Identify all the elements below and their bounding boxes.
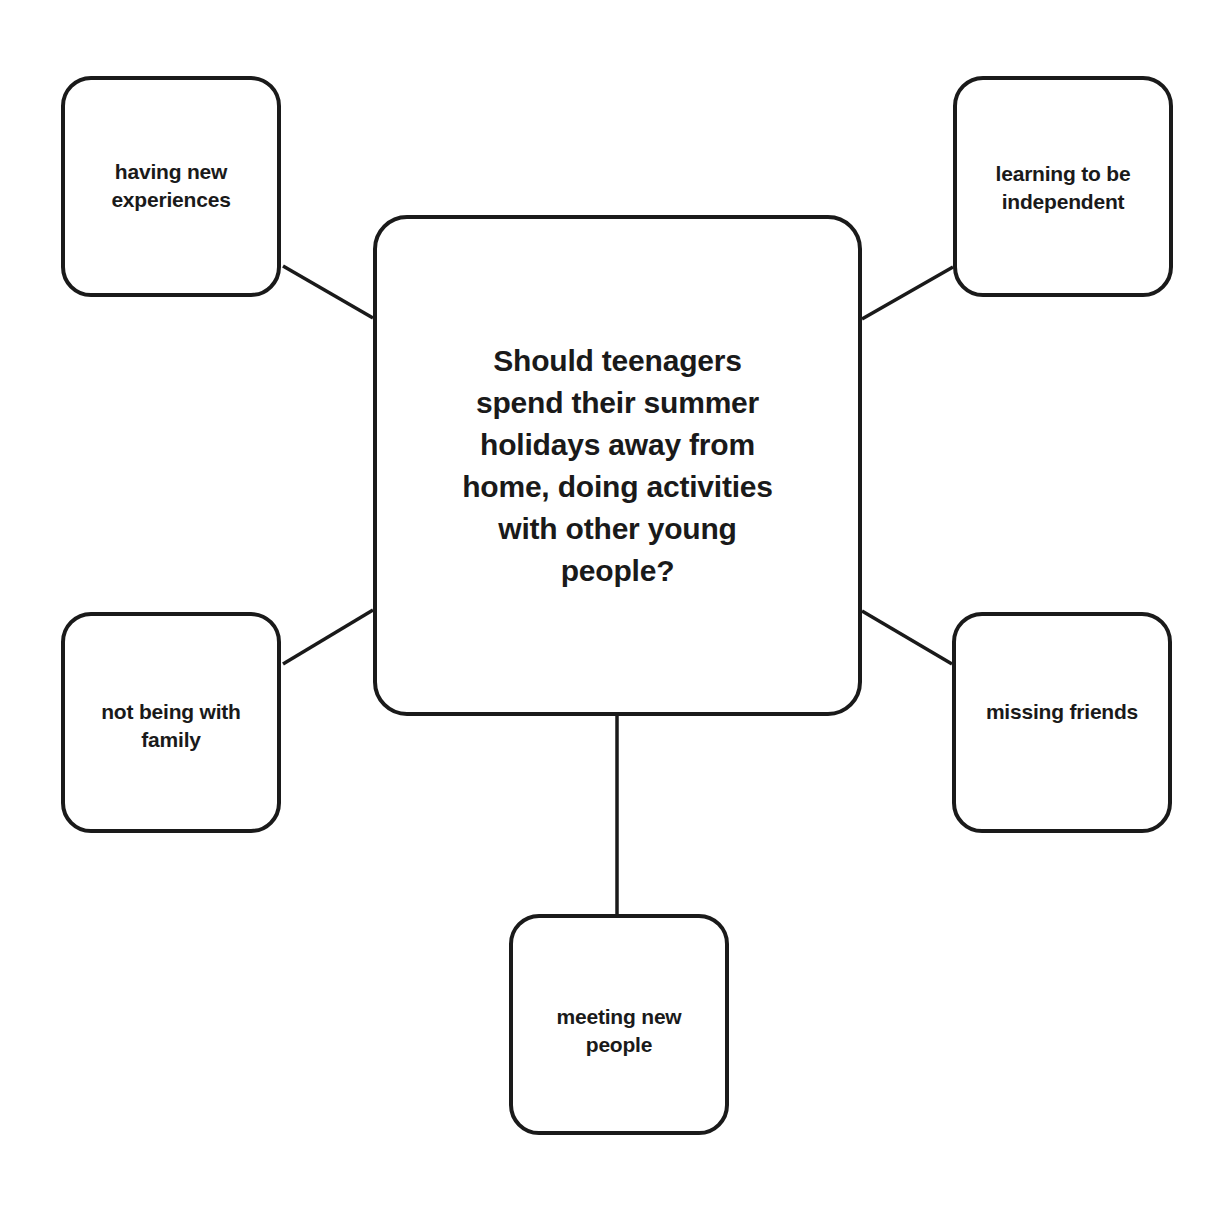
connector-bottom-left bbox=[283, 610, 373, 664]
connector-top-left bbox=[283, 266, 373, 318]
branch-node-missing-friends[interactable]: missing friends bbox=[952, 612, 1172, 833]
branch-node-meeting-new-people[interactable]: meeting new people bbox=[509, 914, 729, 1135]
central-question-node[interactable]: Should teenagers spend their summer holi… bbox=[373, 215, 862, 716]
connector-bottom-right bbox=[862, 611, 952, 664]
branch-label-having-new-experiences: having new experiences bbox=[79, 80, 264, 214]
branch-label-not-being-with-family: not being with family bbox=[79, 616, 264, 754]
central-question-label: Should teenagers spend their summer holi… bbox=[453, 340, 783, 592]
branch-node-having-new-experiences[interactable]: having new experiences bbox=[61, 76, 281, 297]
branch-label-missing-friends: missing friends bbox=[970, 616, 1155, 726]
branch-node-not-being-with-family[interactable]: not being with family bbox=[61, 612, 281, 833]
connector-top-right bbox=[862, 267, 953, 319]
branch-node-learning-to-be-independent[interactable]: learning to be independent bbox=[953, 76, 1173, 297]
mind-map-canvas: Should teenagers spend their summer holi… bbox=[0, 0, 1232, 1205]
branch-label-meeting-new-people: meeting new people bbox=[527, 918, 712, 1059]
branch-label-learning-to-be-independent: learning to be independent bbox=[971, 80, 1156, 216]
